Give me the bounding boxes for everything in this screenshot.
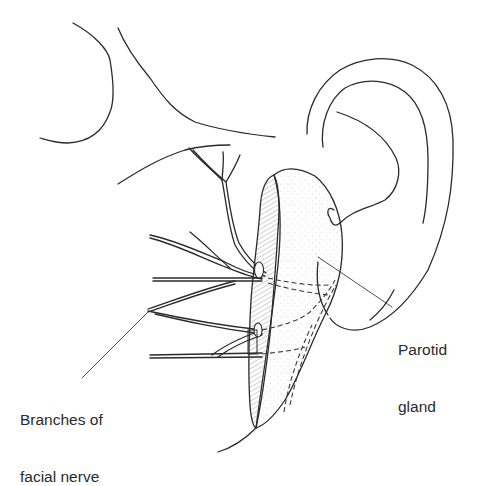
leader-lines	[82, 257, 392, 378]
facial-nerve-label: Branches of facial nerve	[20, 372, 103, 486]
face-contours	[40, 23, 275, 184]
facial-nerve-branches	[148, 148, 266, 358]
parotid-label-line2: gland	[398, 397, 447, 416]
parotid-label-line1: Parotid	[398, 340, 447, 359]
parotid-gland-label: Parotid gland	[398, 302, 447, 435]
nerve-label-line1: Branches of	[20, 410, 103, 429]
parotid-gland	[218, 169, 342, 452]
nerve-label-line2: facial nerve	[20, 467, 103, 486]
